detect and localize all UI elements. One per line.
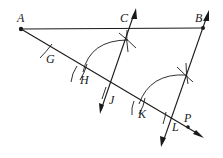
label-a: A <box>16 11 25 25</box>
label-p: P <box>183 111 192 125</box>
construction-arc-2 <box>139 75 186 104</box>
segment-ab <box>21 28 203 29</box>
label-g: G <box>46 52 55 66</box>
label-h: H <box>79 73 90 87</box>
arc-tick-h <box>71 66 77 82</box>
label-j: J <box>109 93 115 107</box>
construction-arc-1 <box>83 40 128 72</box>
label-k: K <box>137 107 147 121</box>
point-a <box>19 27 23 31</box>
point-b <box>201 26 205 30</box>
line-lb-arrowhead-top <box>203 10 209 21</box>
line-jc-arrowhead-top <box>131 8 137 19</box>
label-c: C <box>120 11 129 25</box>
arc-tick-k <box>132 101 134 115</box>
geometry-construction-diagram: A B C G H J K L P <box>0 0 223 158</box>
label-l: L <box>171 120 179 134</box>
point-p <box>186 125 190 129</box>
label-b: B <box>195 11 203 25</box>
